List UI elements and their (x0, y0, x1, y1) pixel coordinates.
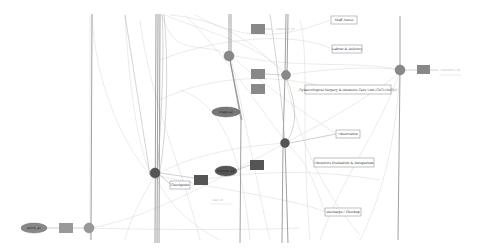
faint-label: transition_t9 (441, 68, 460, 72)
ellipse-label: triage_a2 (219, 110, 233, 114)
place-node[interactable] (282, 71, 291, 80)
transition-node[interactable] (59, 223, 73, 233)
transition-node[interactable] (251, 69, 265, 79)
label-box-staff-nurse[interactable]: Staff Nurse (331, 16, 357, 24)
edges-medium (125, 14, 295, 180)
node-connectors (47, 29, 438, 228)
transition-node[interactable] (251, 84, 265, 94)
transition-node[interactable] (251, 24, 265, 34)
network-diagram-canvas: Staff Nurse Labour & Delivery Gynaecolog… (0, 0, 481, 250)
ellipse-node-transfer[interactable]: transfer_a3 (215, 166, 237, 176)
ellipse-node-triage[interactable]: triage_a2 (212, 107, 240, 117)
label-text: Checkpoint (171, 183, 190, 187)
transition-node[interactable] (194, 175, 208, 185)
label-box-observation[interactable]: Observation (336, 130, 360, 138)
label-box-gynaecological-surgery[interactable]: Gynaecological Surgery & Intensive Care … (299, 85, 397, 94)
ellipse-node-admit[interactable]: admit_a1 (21, 223, 47, 233)
transition-node[interactable] (417, 65, 430, 74)
faint-label: transition_t1 (276, 27, 295, 31)
faint-label: bed_t4 (213, 198, 223, 202)
label-text: Discharge / Checkup (326, 210, 360, 214)
place-node[interactable] (281, 139, 290, 148)
label-text: Observation (338, 132, 358, 136)
ellipse-label: transfer_a3 (217, 169, 234, 173)
label-box-discharge-checkup[interactable]: Discharge / Checkup (325, 208, 361, 216)
label-box-checkpoint[interactable]: Checkpoint (170, 181, 190, 189)
label-box-labour-delivery[interactable]: Labour & Delivery (332, 45, 362, 53)
place-node[interactable] (224, 51, 234, 61)
place-node[interactable] (84, 223, 94, 233)
label-text: Obstetrics Evaluation & Antepartum (314, 161, 373, 165)
label-text: Staff Nurse (335, 18, 354, 22)
label-text: Gynaecological Surgery & Intensive Care … (299, 88, 397, 92)
ellipse-label: admit_a1 (27, 226, 41, 230)
label-box-obstetrics-evaluation[interactable]: Obstetrics Evaluation & Antepartum (314, 158, 374, 167)
label-text: Labour & Delivery (332, 47, 362, 51)
transition-node[interactable] (250, 160, 264, 170)
place-node[interactable] (150, 168, 160, 178)
place-node[interactable] (395, 65, 405, 75)
